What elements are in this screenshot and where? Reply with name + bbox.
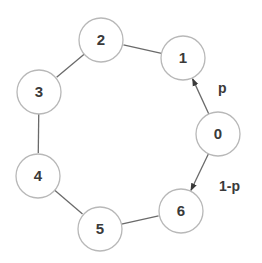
node-label: 3 xyxy=(35,83,43,100)
node-label: 6 xyxy=(177,202,185,219)
node-label: 5 xyxy=(96,220,104,237)
edge-0-1-arrow xyxy=(193,79,209,114)
edge-label-0-6: 1-p xyxy=(219,178,240,194)
edge-4-5 xyxy=(55,190,83,214)
edge-label-0-1: p xyxy=(218,80,227,96)
ring-diagram: 0123456 p1-p xyxy=(0,0,262,263)
node-4: 4 xyxy=(16,154,60,198)
edge-2-3 xyxy=(57,54,85,77)
node-label: 2 xyxy=(97,31,105,48)
diagram-canvas: 0123456 p1-p xyxy=(0,0,262,263)
node-1: 1 xyxy=(161,36,205,80)
node-0: 0 xyxy=(196,112,240,156)
node-3: 3 xyxy=(17,70,61,114)
node-label: 1 xyxy=(179,49,187,66)
node-6: 6 xyxy=(159,189,203,233)
edge-0-6-arrow xyxy=(191,154,209,190)
node-label: 0 xyxy=(214,125,222,142)
node-2: 2 xyxy=(79,18,123,62)
nodes-layer: 0123456 xyxy=(16,18,240,251)
node-5: 5 xyxy=(78,207,122,251)
edge-5-6 xyxy=(121,216,158,224)
node-label: 4 xyxy=(34,167,43,184)
edge-1-2 xyxy=(123,45,161,53)
